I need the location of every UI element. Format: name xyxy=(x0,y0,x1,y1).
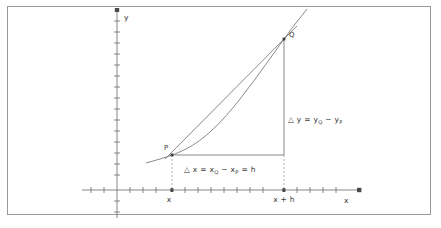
x-axis-label: x xyxy=(344,196,349,205)
delta-y-sub2: P xyxy=(339,119,342,125)
x-tick-label-q: x + h xyxy=(273,195,295,204)
delta-x-text2: − x xyxy=(219,165,236,174)
y-axis-arrow-cap xyxy=(115,8,119,12)
point-marker-q xyxy=(283,38,286,41)
delta-y-text2: − y xyxy=(323,115,340,124)
delta-x-text3: = h xyxy=(239,165,256,174)
calculus-secant-diagram: y x P Q x x + h △ x = xQ − xP = h △ y = … xyxy=(0,0,441,228)
secant-line-pq xyxy=(165,26,297,159)
point-label-q: Q xyxy=(289,31,295,39)
point-marker-p xyxy=(171,154,174,157)
y-axis-label: y xyxy=(124,13,129,22)
function-curve xyxy=(146,9,307,163)
delta-y-annotation: △ y = yQ − yP xyxy=(288,115,343,125)
delta-y-text1: y = y xyxy=(294,115,318,124)
x-tick-label-p: x xyxy=(167,195,172,204)
delta-x-text1: x = x xyxy=(190,165,214,174)
figure-root: y x P Q x x + h △ x = xQ − xP = h △ y = … xyxy=(0,0,441,228)
svg-text:△ y = yQ − yP: △ y = yQ − yP xyxy=(288,115,343,125)
y-axis-group xyxy=(114,8,120,218)
svg-text:△ x = xQ − xP = h: △ x = xQ − xP = h xyxy=(184,165,256,175)
x-axis-group xyxy=(82,187,361,193)
delta-x-annotation: △ x = xQ − xP = h xyxy=(184,165,256,175)
x-axis-arrow-cap xyxy=(357,188,361,192)
point-label-p: P xyxy=(164,144,169,152)
